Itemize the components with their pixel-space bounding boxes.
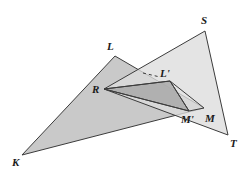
geometry-figure: K L M R S T L' M' <box>0 0 252 178</box>
vertex-label-r: R <box>92 84 99 95</box>
vertex-label-m: M <box>205 113 215 124</box>
vertex-label-s: S <box>201 15 207 26</box>
vertex-label-l: L <box>107 41 114 52</box>
vertex-label-t: T <box>230 138 237 149</box>
vertex-label-l-prime: L' <box>160 68 170 79</box>
figure-canvas <box>0 0 252 178</box>
vertex-label-k: K <box>12 157 19 168</box>
vertex-label-m-prime: M' <box>181 114 194 125</box>
